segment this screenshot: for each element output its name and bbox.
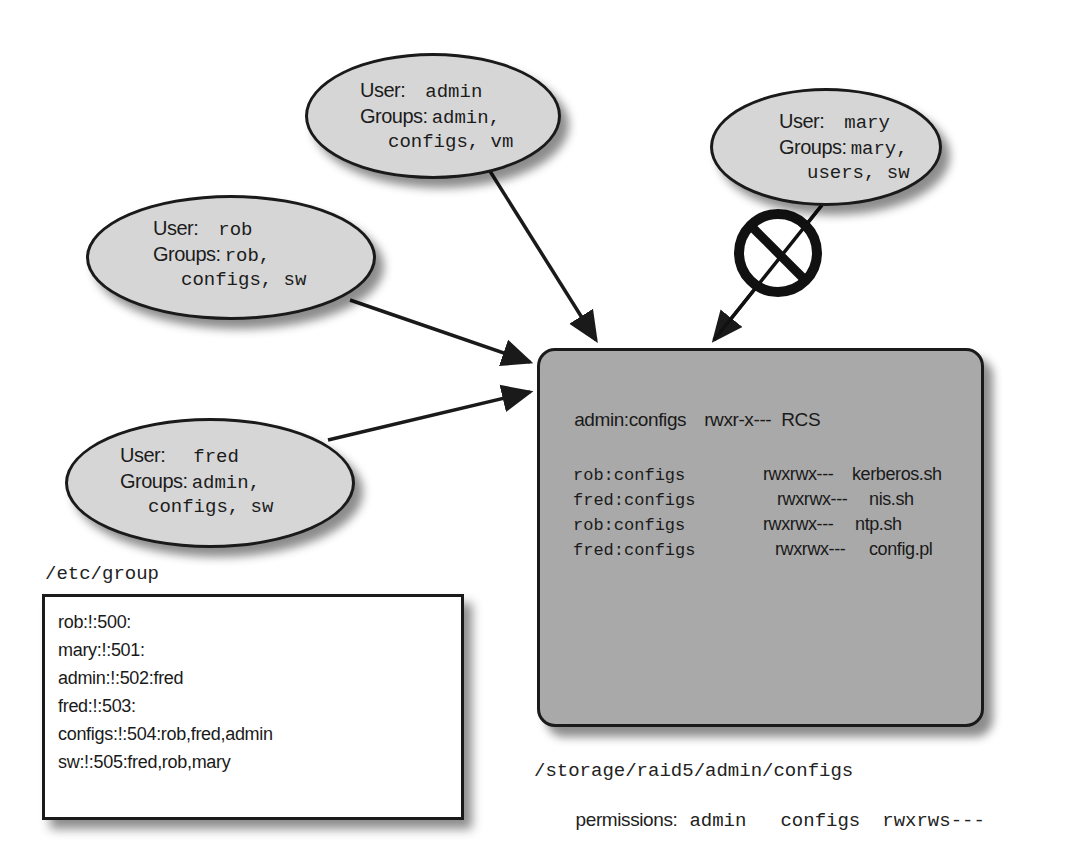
group-line: configs:!:504:rob,fred,admin [58, 724, 273, 745]
groups-label: Groups: [120, 470, 188, 492]
file-name: config.pl [869, 539, 932, 559]
group-line: fred:!:503: [58, 696, 136, 717]
group-line: admin:!:502:fred [58, 668, 183, 689]
etc-group-title: /etc/group [45, 563, 159, 585]
groups-line-2: configs, sw [181, 268, 306, 293]
user-name: fred [193, 446, 239, 468]
prohibited-icon [714, 205, 822, 340]
groups-line-1: admin, [192, 472, 260, 494]
directory-path: /storage/raid5/admin/configs [534, 760, 853, 782]
arrow-admin-to-repo [488, 168, 596, 340]
perm-group: configs [780, 810, 860, 832]
arrow-fred-to-repo [328, 392, 530, 440]
user-label: User: [360, 79, 405, 101]
arrow-rob-to-repo [350, 300, 530, 362]
file-row: fred:configsrwxrwx---config.pl [553, 518, 932, 581]
repo-header-perm: rwxr-x--- [704, 409, 771, 430]
groups-line-1: admin, [432, 107, 500, 129]
user-name: rob [218, 219, 252, 241]
user-ellipse-admin: User:admin Groups:admin, configs, vm [305, 53, 561, 179]
groups-label: Groups: [779, 136, 847, 158]
group-line: sw:!:505:fred,rob,mary [58, 752, 230, 773]
perm-mode: rwxrws--- [882, 810, 985, 832]
user-ellipse-mary: User:mary Groups:mary, users, sw [710, 88, 942, 206]
etc-group-file-box: rob:!:500: mary:!:501: admin:!:502:fred … [42, 594, 464, 820]
group-line: mary:!:501: [58, 640, 145, 661]
groups-label: Groups: [360, 105, 428, 127]
groups-line-2: configs, sw [148, 495, 273, 520]
user-name: mary [844, 112, 890, 134]
groups-line-2: users, sw [807, 161, 910, 186]
repository-directory-box: admin:configsrwxr-x---RCS rob:configsrwx… [537, 348, 984, 727]
user-label: User: [779, 110, 824, 132]
groups-line-2: configs, vm [388, 130, 513, 155]
directory-permissions: permissions:adminconfigsrwxrws--- [565, 787, 985, 832]
groups-line-1: rob, [225, 245, 271, 267]
repo-header-name: RCS [781, 409, 820, 430]
file-owner: fred:configs [573, 541, 775, 560]
user-ellipse-rob: User:rob Groups:rob, configs, sw [86, 195, 376, 320]
permissions-label: permissions: [576, 809, 678, 830]
perm-owner: admin [689, 810, 746, 832]
group-line: rob:!:500: [58, 612, 131, 633]
file-perm: rwxrwx--- [775, 539, 869, 560]
groups-label: Groups: [153, 243, 221, 265]
repo-header-owner: admin:configs [574, 409, 686, 430]
groups-line-1: mary, [851, 138, 908, 160]
user-ellipse-fred: User:fred Groups:admin, configs, sw [65, 418, 355, 548]
user-label: User: [153, 217, 198, 239]
user-label: User: [120, 444, 165, 466]
user-name: admin [425, 81, 482, 103]
